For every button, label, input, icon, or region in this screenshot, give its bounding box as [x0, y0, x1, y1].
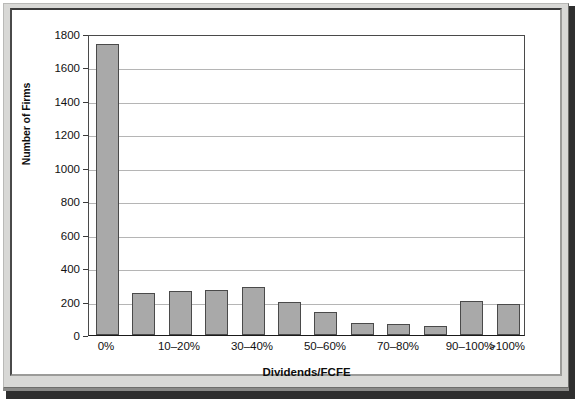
x-tick-label: 50–60% [304, 340, 346, 352]
bar [387, 324, 410, 335]
bar [132, 293, 155, 335]
x-tick-label: >100% [489, 340, 525, 352]
y-tick-label: 1800 [20, 29, 80, 41]
x-tick-label: 90–100% [446, 340, 495, 352]
bar [497, 304, 520, 335]
y-tick-label: 200 [20, 297, 80, 309]
bar-series [89, 36, 524, 335]
y-tick-mark [83, 336, 88, 337]
chart-screenshot: 020040060080010001200140016001800 Number… [0, 0, 575, 399]
x-tick-label: 10–20% [158, 340, 200, 352]
plot-area [88, 35, 525, 336]
y-tick-label: 800 [20, 196, 80, 208]
bar [205, 290, 228, 335]
y-axis-tick-labels: 020040060080010001200140016001800 [0, 0, 88, 399]
x-tick-label: 0% [98, 340, 115, 352]
histogram-chart: 020040060080010001200140016001800 Number… [0, 0, 575, 399]
y-axis-title: Number of Firms [20, 54, 32, 194]
y-tick-label: 600 [20, 230, 80, 242]
bar [314, 312, 337, 335]
y-tick-label: 400 [20, 263, 80, 275]
bar [169, 291, 192, 335]
bar [278, 302, 301, 335]
bar [460, 301, 483, 335]
y-tick-label: 0 [20, 330, 80, 342]
x-tick-label: 30–40% [231, 340, 273, 352]
bar [424, 326, 447, 335]
x-axis-title: Dividends/FCFE [88, 366, 525, 378]
x-axis-tick-labels: 0%10–20%30–40%50–60%70–80%90–100%>100% [88, 340, 525, 360]
bar [242, 287, 265, 335]
x-tick-label: 70–80% [377, 340, 419, 352]
bar [351, 323, 374, 335]
bar [96, 44, 119, 335]
